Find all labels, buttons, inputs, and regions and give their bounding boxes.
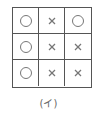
circle-mark-icon (19, 66, 33, 80)
diagram-caption: (イ) (0, 95, 97, 110)
grid-cell (39, 34, 65, 60)
cross-mark-icon (45, 14, 59, 28)
circle-mark-icon (19, 14, 33, 28)
cross-mark-icon (45, 66, 59, 80)
grid-cell (65, 8, 91, 34)
grid-cell (13, 8, 39, 34)
tic-tac-toe-grid (12, 7, 92, 88)
grid-cell (13, 34, 39, 60)
grid-cell (39, 8, 65, 34)
cross-mark-icon (71, 40, 85, 54)
grid-cell (39, 60, 65, 86)
circle-mark-icon (19, 40, 33, 54)
grid-cell (65, 60, 91, 86)
cross-mark-icon (45, 40, 59, 54)
cross-mark-icon (71, 66, 85, 80)
circle-mark-icon (71, 14, 85, 28)
grid-cell (13, 60, 39, 86)
grid-cell (65, 34, 91, 60)
